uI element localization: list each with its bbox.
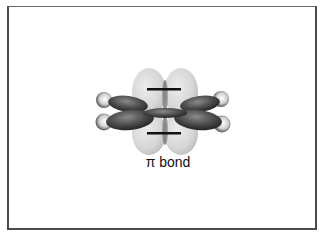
pi-bond-molecule-diagram	[0, 0, 322, 237]
upper-minus-sign	[147, 88, 181, 91]
sigma-bond	[143, 108, 187, 118]
pi-bond-label: π bond	[130, 154, 206, 170]
lower-minus-sign	[147, 132, 181, 135]
